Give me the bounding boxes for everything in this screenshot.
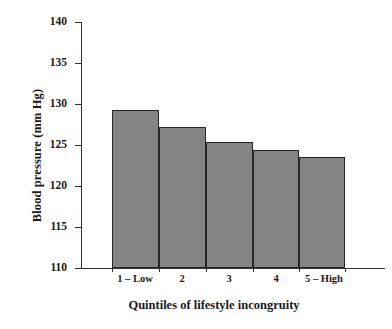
x-tick-label-5: 5 – High [305,274,343,285]
x-tick-label-2: 2 [179,274,184,285]
y-tick-label-115: 115 [50,221,67,233]
bar-quintile-2 [159,127,206,268]
y-tick-label-140: 140 [50,16,67,28]
plot-area: 140 135 130 125 120 115 110 [81,22,385,268]
bar-quintile-1 [112,110,159,268]
y-tick-label-135: 135 [50,57,67,69]
x-tick-label-4: 4 [273,274,278,285]
y-tick-label-120: 120 [50,180,67,192]
x-tick-mark-6 [345,268,346,272]
y-tick-120: 120 [75,186,81,187]
x-tick-mark-4 [253,268,254,272]
y-axis-line [81,22,82,269]
y-tick-label-130: 130 [50,98,67,110]
bar-quintile-4 [253,150,299,268]
x-tick-mark-5 [299,268,300,272]
y-axis-title: Blood pressure (mm Hg) [30,46,45,266]
y-tick-125: 125 [75,145,81,146]
y-tick-135: 135 [75,63,81,64]
x-tick-mark-3 [206,268,207,272]
y-tick-130: 130 [75,104,81,105]
x-tick-label-3: 3 [226,274,231,285]
y-tick-label-125: 125 [50,139,67,151]
y-tick-label-110: 110 [50,262,67,274]
x-tick-mark-1 [112,268,113,272]
x-tick-label-1: 1 – Low [117,274,153,285]
bar-quintile-5 [299,157,345,268]
y-tick-115: 115 [75,227,81,228]
y-tick-110: 110 [75,268,81,269]
x-tick-mark-2 [159,268,160,272]
bar-series [112,22,345,268]
x-axis-title: Quintiles of lifestyle incongruity [0,298,392,313]
bar-quintile-3 [206,142,253,268]
y-tick-140: 140 [75,22,81,23]
bar-chart-figure: Blood pressure (mm Hg) 140 135 130 125 1… [0,0,392,329]
x-axis-line [81,268,385,269]
